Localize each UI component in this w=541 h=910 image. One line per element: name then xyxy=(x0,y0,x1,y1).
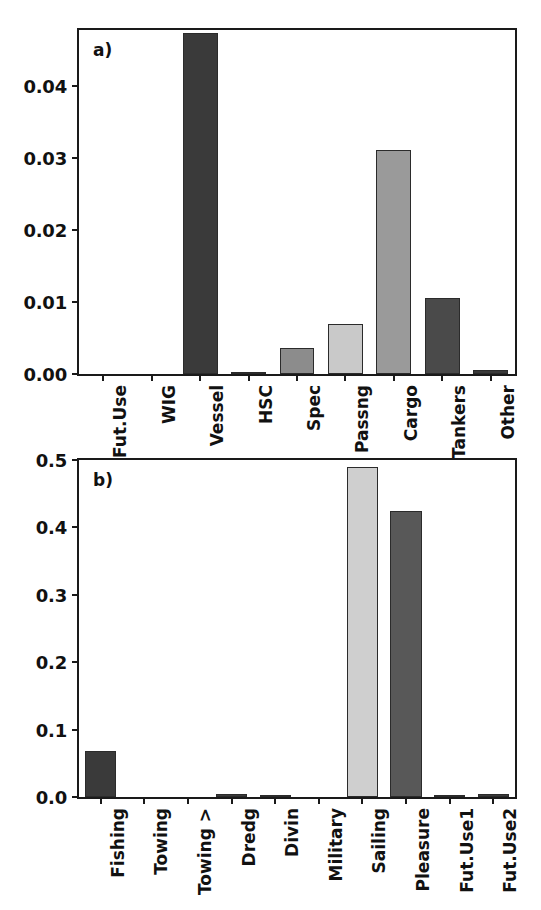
x-tick-mark xyxy=(248,374,250,381)
bar xyxy=(280,348,315,374)
y-tick-mark xyxy=(72,373,79,375)
y-tick-label: 0.00 xyxy=(0,364,79,385)
bar xyxy=(328,324,363,374)
y-tick-label: 0.02 xyxy=(0,219,79,240)
y-tick-label: 0.3 xyxy=(0,584,79,605)
x-tick-label: Passng xyxy=(352,385,372,453)
x-tick-label: HSC xyxy=(256,385,276,424)
x-tick-label: Divin xyxy=(282,808,302,857)
x-tick-label: Towing > xyxy=(195,808,215,895)
y-tick-mark xyxy=(72,526,79,528)
panel-a: a) 0.000.010.020.030.04 Fut.UseWIGVessel… xyxy=(0,0,541,460)
y-tick-label: 0.0 xyxy=(0,787,79,808)
bar-series-b xyxy=(79,460,515,797)
y-tick-mark xyxy=(72,229,79,231)
x-tick-mark xyxy=(187,797,189,804)
bar xyxy=(425,298,460,374)
x-tick-label: Tankers xyxy=(449,385,469,459)
x-tick-mark xyxy=(100,797,102,804)
y-tick-mark xyxy=(72,459,79,461)
x-tick-label: Pleasure xyxy=(413,808,433,891)
y-tick-label: 0.4 xyxy=(0,517,79,538)
x-tick-label: WIG xyxy=(159,385,179,424)
x-tick-label: Dredg xyxy=(239,808,259,866)
x-tick-mark xyxy=(274,797,276,804)
panel-b: b) 0.00.10.20.30.40.5 FishingTowingTowin… xyxy=(0,450,541,910)
x-tick-mark xyxy=(199,374,201,381)
x-tick-label: Fut.Use2 xyxy=(500,808,520,893)
y-tick-mark xyxy=(72,85,79,87)
x-tick-label: Other xyxy=(498,385,518,440)
x-tick-mark xyxy=(231,797,233,804)
x-tick-label: Sailing xyxy=(369,808,389,873)
x-tick-mark xyxy=(393,374,395,381)
x-tick-label: Military xyxy=(326,808,346,881)
y-tick-mark xyxy=(72,796,79,798)
x-tick-mark xyxy=(102,374,104,381)
plot-area-a: a) 0.000.010.020.030.04 Fut.UseWIGVessel… xyxy=(77,28,517,376)
bar xyxy=(390,511,421,797)
x-tick-mark xyxy=(492,797,494,804)
y-tick-label: 0.5 xyxy=(0,450,79,471)
x-tick-label: Towing xyxy=(151,808,171,875)
bar-series-a xyxy=(79,30,515,374)
x-tick-mark xyxy=(441,374,443,381)
x-tick-label: Cargo xyxy=(401,385,421,441)
x-tick-label: Vessel xyxy=(207,385,227,446)
bar xyxy=(376,150,411,374)
x-tick-mark xyxy=(361,797,363,804)
y-tick-mark xyxy=(72,594,79,596)
y-tick-mark xyxy=(72,301,79,303)
y-tick-mark xyxy=(72,661,79,663)
y-tick-mark xyxy=(72,729,79,731)
y-tick-label: 0.2 xyxy=(0,652,79,673)
figure-root: a) 0.000.010.020.030.04 Fut.UseWIGVessel… xyxy=(0,0,541,910)
y-tick-label: 0.04 xyxy=(0,75,79,96)
x-tick-mark xyxy=(449,797,451,804)
x-tick-mark xyxy=(143,797,145,804)
bar xyxy=(85,751,116,798)
y-tick-label: 0.01 xyxy=(0,291,79,312)
x-tick-label: Fishing xyxy=(108,808,128,878)
bar xyxy=(183,33,218,374)
x-tick-mark xyxy=(405,797,407,804)
x-tick-label: Fut.Use1 xyxy=(457,808,477,893)
x-tick-label: Spec xyxy=(304,385,324,431)
x-tick-mark xyxy=(296,374,298,381)
y-tick-label: 0.1 xyxy=(0,719,79,740)
plot-area-b: b) 0.00.10.20.30.40.5 FishingTowingTowin… xyxy=(77,458,517,799)
x-tick-mark xyxy=(151,374,153,381)
bar xyxy=(347,467,378,797)
y-tick-mark xyxy=(72,157,79,159)
x-tick-mark xyxy=(490,374,492,381)
x-tick-mark xyxy=(344,374,346,381)
x-tick-mark xyxy=(318,797,320,804)
y-tick-label: 0.03 xyxy=(0,147,79,168)
x-tick-label: Fut.Use xyxy=(110,385,130,458)
